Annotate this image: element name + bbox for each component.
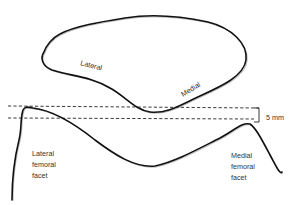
svg-text:femoral: femoral (32, 160, 56, 169)
patella-outline (42, 16, 247, 113)
patella-lateral-label: Lateral (80, 58, 104, 72)
medial-facet-label: Medial femoral facet (231, 151, 255, 182)
svg-text:facet: facet (32, 171, 48, 180)
svg-text:Lateral: Lateral (32, 149, 54, 158)
svg-text:Medial: Medial (231, 151, 253, 160)
svg-text:facet: facet (231, 173, 247, 182)
svg-text:femoral: femoral (231, 162, 255, 171)
measurement-bracket (254, 108, 259, 122)
lower-dashed-line (8, 118, 254, 119)
lateral-facet-label: Lateral femoral facet (32, 149, 56, 180)
measurement-label: 5 mm (266, 113, 284, 122)
patellofemoral-diagram: Lateral Medial 5 mm Lateral femoral face… (0, 0, 296, 205)
upper-dashed-line (8, 106, 259, 108)
